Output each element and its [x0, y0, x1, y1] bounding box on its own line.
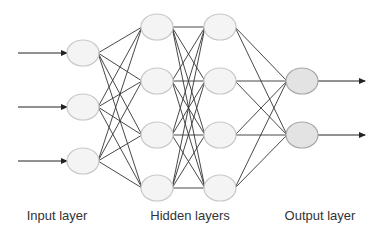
- hidden1-neuron: [141, 68, 173, 94]
- hidden2-neuron: [204, 175, 236, 201]
- connection-edge: [98, 161, 142, 188]
- hidden2-neuron: [204, 68, 236, 94]
- input-neuron: [67, 148, 99, 174]
- connection-edge: [98, 27, 142, 161]
- connection-edge: [98, 27, 142, 53]
- hidden-layers-label: Hidden layers: [150, 208, 230, 223]
- output-neuron: [286, 122, 318, 148]
- hidden1-neuron: [141, 14, 173, 40]
- connection-edge: [235, 27, 287, 81]
- connection-edge: [235, 81, 287, 188]
- output-layer-label: Output layer: [285, 208, 356, 223]
- input-neuron: [67, 40, 99, 66]
- neurons: [67, 14, 318, 201]
- output-neuron: [286, 68, 318, 94]
- input-neuron: [67, 94, 99, 120]
- hidden2-neuron: [204, 122, 236, 148]
- hidden1-neuron: [141, 122, 173, 148]
- neural-network-diagram: [0, 0, 377, 236]
- hidden2-neuron: [204, 14, 236, 40]
- connections: [98, 27, 287, 188]
- hidden1-neuron: [141, 175, 173, 201]
- input-layer-label: Input layer: [27, 208, 88, 223]
- connection-edge: [235, 135, 287, 188]
- connection-edge: [98, 135, 142, 161]
